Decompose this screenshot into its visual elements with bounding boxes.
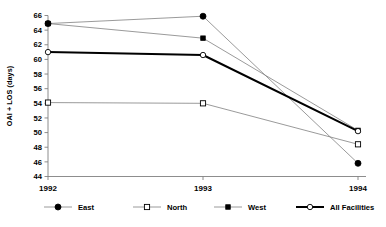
chart-figure: 444648505254565860626466199219931994OAI … bbox=[0, 0, 386, 227]
legend-label: All Facilities bbox=[330, 203, 374, 212]
legend-item-all-facilities[interactable]: All Facilities bbox=[296, 203, 374, 212]
legend-label: West bbox=[248, 203, 266, 212]
line-chart: 444648505254565860626466199219931994OAI … bbox=[0, 0, 386, 227]
legend-marker bbox=[55, 204, 61, 210]
data-point bbox=[45, 49, 50, 54]
data-point bbox=[200, 101, 205, 106]
data-point bbox=[45, 100, 50, 105]
legend-marker bbox=[226, 205, 231, 210]
legend-label: East bbox=[78, 203, 95, 212]
y-axis-title: OAI + LOS (days) bbox=[5, 65, 14, 126]
legend-marker bbox=[144, 204, 149, 209]
x-tick-label: 1992 bbox=[39, 184, 57, 193]
legend-marker bbox=[307, 204, 312, 209]
legend-item-east[interactable]: East bbox=[44, 203, 95, 212]
y-tick-label: 46 bbox=[34, 158, 42, 167]
y-tick-label: 64 bbox=[34, 26, 43, 35]
legend-item-west[interactable]: West bbox=[214, 203, 266, 212]
y-tick-label: 66 bbox=[34, 11, 42, 20]
data-point bbox=[355, 128, 360, 133]
x-tick-label: 1993 bbox=[194, 184, 212, 193]
legend-item-north[interactable]: North bbox=[133, 203, 188, 212]
y-tick-label: 48 bbox=[34, 143, 42, 152]
legend-label: North bbox=[167, 203, 188, 212]
y-tick-label: 54 bbox=[34, 99, 43, 108]
y-tick-label: 50 bbox=[34, 128, 42, 137]
x-tick-label: 1994 bbox=[349, 184, 367, 193]
data-point bbox=[355, 142, 360, 147]
y-tick-label: 62 bbox=[34, 40, 42, 49]
data-point bbox=[200, 13, 206, 19]
y-tick-label: 44 bbox=[34, 172, 43, 181]
data-point bbox=[200, 52, 205, 57]
y-tick-label: 52 bbox=[34, 114, 42, 123]
y-tick-label: 56 bbox=[34, 84, 42, 93]
data-point bbox=[201, 36, 206, 41]
y-tick-label: 60 bbox=[34, 55, 42, 64]
y-tick-label: 58 bbox=[34, 70, 42, 79]
markers-north bbox=[45, 100, 360, 147]
markers-west bbox=[46, 21, 361, 132]
data-point bbox=[46, 21, 51, 26]
data-point bbox=[355, 160, 361, 166]
